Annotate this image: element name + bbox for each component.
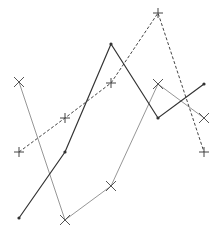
- chart-plot-area: [0, 0, 221, 234]
- x-marker-icon: [153, 79, 163, 89]
- series-dashed: [14, 8, 209, 157]
- dot-marker-icon: [202, 82, 205, 85]
- plus-marker-icon: [106, 78, 116, 88]
- dot-marker-icon: [109, 42, 112, 45]
- line-chart: [0, 0, 221, 234]
- plus-marker-icon: [153, 8, 163, 18]
- series-light: [14, 77, 209, 225]
- x-marker-icon: [199, 113, 209, 123]
- dot-marker-icon: [156, 116, 159, 119]
- dot-marker-icon: [63, 150, 66, 153]
- plus-marker-icon: [14, 147, 24, 157]
- plus-marker-icon: [199, 147, 209, 157]
- x-marker-icon: [60, 215, 70, 225]
- dot-marker-icon: [17, 216, 20, 219]
- plus-marker-icon: [60, 113, 70, 123]
- series-solid: [17, 42, 205, 219]
- series-solid-line: [19, 44, 204, 218]
- x-marker-icon: [106, 181, 116, 191]
- x-marker-icon: [14, 77, 24, 87]
- series-light-line: [19, 82, 204, 220]
